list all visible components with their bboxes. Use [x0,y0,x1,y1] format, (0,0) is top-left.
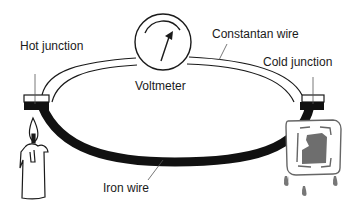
cold-junction-block [300,95,324,110]
constantan-wire-label: Constantan wire [212,28,299,41]
voltmeter [135,14,191,70]
thermocouple-diagram: Hot junction Voltmeter Constantan wire C… [0,0,358,215]
ice-cube-icon [284,120,341,196]
iron-wire-label: Iron wire [103,182,149,195]
hot-junction-label: Hot junction [20,40,83,53]
iron-wire [42,106,310,162]
constantan-wire-leader [219,44,227,60]
candle-icon [20,118,48,199]
hot-junction-block [24,95,49,110]
voltmeter-label: Voltmeter [135,80,186,93]
cold-junction-label: Cold junction [263,56,332,69]
diagram-canvas [0,0,358,215]
